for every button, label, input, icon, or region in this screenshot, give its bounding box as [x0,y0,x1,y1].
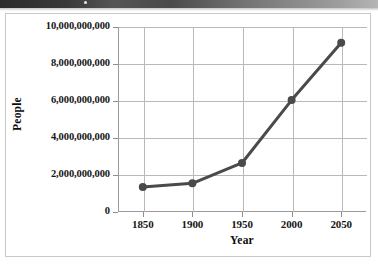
screenshot-root: People 02,000,000,0004,000,000,0006,000,… [0,0,378,264]
data-point-marker [139,183,147,191]
data-point-marker [337,39,345,47]
series-markers [139,39,345,191]
line-chart-figure: People 02,000,000,0004,000,000,0006,000,… [0,0,378,264]
data-point-marker [238,159,246,167]
data-series-layer [0,0,378,264]
data-point-marker [288,96,296,104]
data-point-marker [188,179,196,187]
